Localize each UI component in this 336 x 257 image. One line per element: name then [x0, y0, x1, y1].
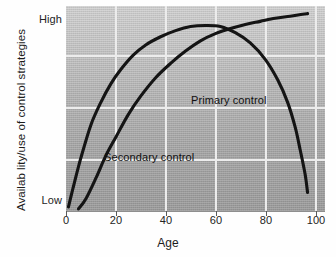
chart-curves	[66, 6, 325, 211]
xtick-label-80: 80	[246, 214, 286, 226]
x-axis-label: Age	[0, 236, 336, 250]
xtick-label-100: 100	[296, 214, 336, 226]
y-axis-label: Availab lity/use of control strategies	[15, 29, 27, 211]
xtick-label-60: 60	[196, 214, 236, 226]
ytick-label-high: High	[18, 13, 62, 25]
xtick-label-20: 20	[96, 214, 136, 226]
curve-secondary-control	[78, 14, 307, 209]
annotation-primary-control: Primary control	[191, 94, 266, 106]
chart-figure: High Low 0 20 40 60 80 100 Age Availab l…	[0, 0, 336, 257]
xtick-label-0: 0	[46, 214, 86, 226]
xtick-label-40: 40	[146, 214, 186, 226]
x-axis-line	[66, 211, 325, 212]
annotation-secondary-control: Secondary control	[104, 151, 194, 163]
curve-primary-control	[68, 25, 307, 206]
